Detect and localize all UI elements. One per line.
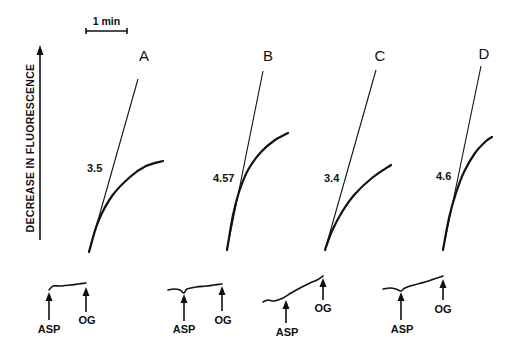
arrowhead-icon xyxy=(320,278,327,287)
initial-rate-label: 4.6 xyxy=(436,170,451,182)
initial-rate-tangent-line xyxy=(325,70,376,250)
baseline-trace xyxy=(383,276,443,291)
trigger-asp: ASP xyxy=(391,292,414,335)
scale-bar-label: 1 min xyxy=(93,15,120,27)
fluorescence-curve xyxy=(89,161,163,252)
trigger-label: ASP xyxy=(276,326,299,338)
scale-bar: 1 min xyxy=(86,15,127,34)
panel-letter: D xyxy=(479,45,490,62)
trigger-label: OG xyxy=(214,314,231,326)
trigger-label: OG xyxy=(78,314,95,326)
arrowhead-icon xyxy=(398,292,405,301)
fluorescence-curve xyxy=(443,137,492,250)
trigger-og: OG xyxy=(214,286,231,326)
panel-c: C3.4ASPOG xyxy=(263,47,391,338)
panel-letter: A xyxy=(139,47,149,64)
arrowhead-icon xyxy=(181,294,188,303)
arrowhead-icon xyxy=(46,292,53,301)
trigger-label: OG xyxy=(434,303,451,315)
baseline-trace xyxy=(168,284,222,293)
panels: A3.5ASPOGB4.57ASPOGC3.4ASPOGD4.6ASPOG xyxy=(38,45,492,338)
panel-b: B4.57ASPOG xyxy=(168,47,288,335)
panel-d: D4.6ASPOG xyxy=(383,45,492,335)
arrowhead-icon xyxy=(283,300,290,309)
fluorescence-curve xyxy=(227,133,288,250)
trigger-asp: ASP xyxy=(38,292,61,335)
panel-letter: B xyxy=(263,47,273,64)
trigger-og: OG xyxy=(314,278,331,314)
y-axis-label: DECREASE IN FLUORESCENCE xyxy=(24,64,36,233)
trigger-asp: ASP xyxy=(173,294,196,335)
trigger-asp: ASP xyxy=(276,300,299,338)
trigger-label: OG xyxy=(314,302,331,314)
initial-rate-label: 3.5 xyxy=(87,162,102,174)
baseline-trace xyxy=(263,276,323,302)
trigger-label: ASP xyxy=(38,323,61,335)
initial-rate-label: 3.4 xyxy=(324,172,340,184)
baseline-trace xyxy=(49,283,86,290)
initial-rate-label: 4.57 xyxy=(213,172,234,184)
trigger-og: OG xyxy=(78,287,95,326)
arrowhead-icon xyxy=(37,45,44,55)
trigger-og: OG xyxy=(434,279,451,315)
panel-a: A3.5ASPOG xyxy=(38,47,163,335)
trigger-label: ASP xyxy=(173,323,196,335)
arrowhead-icon xyxy=(83,287,90,296)
arrowhead-icon xyxy=(219,286,226,295)
fluorescence-figure: 1 min DECREASE IN FLUORESCENCE A3.5ASPOG… xyxy=(0,0,514,351)
panel-letter: C xyxy=(375,47,386,64)
y-axis: DECREASE IN FLUORESCENCE xyxy=(24,45,44,240)
trigger-label: ASP xyxy=(391,323,414,335)
arrowhead-icon xyxy=(440,279,447,288)
